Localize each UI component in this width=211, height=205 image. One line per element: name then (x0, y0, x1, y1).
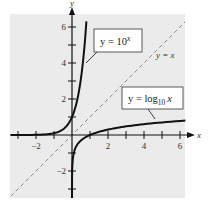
chart: −2246 642−2 y = 10x y = x y = log10x x y (0, 0, 211, 205)
exp-label: y = 10x (100, 34, 131, 47)
y-tick-label: −2 (56, 166, 66, 176)
x-tick-label: 6 (178, 141, 183, 151)
y-arrow-icon (69, 7, 75, 15)
identity-label: y = x (155, 50, 175, 60)
x-tick-label: 4 (142, 141, 147, 151)
y-tick-label: 2 (62, 94, 67, 104)
y-tick-label: 4 (62, 58, 67, 68)
y-axis-name: y (69, 0, 74, 8)
x-arrow-icon (187, 132, 195, 138)
x-tick-label: 2 (106, 141, 111, 151)
x-axis-name: x (196, 130, 201, 140)
x-tick-label: −2 (31, 141, 41, 151)
y-tick-label: 6 (62, 22, 67, 32)
